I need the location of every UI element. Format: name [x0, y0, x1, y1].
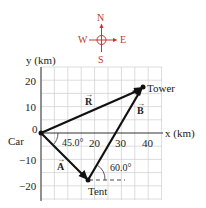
y-tick: 20 — [25, 76, 36, 87]
vector-arrow-a: → — [57, 156, 65, 164]
compass-south: S — [98, 55, 104, 65]
angle-b-label: 60.0° — [110, 163, 132, 173]
x-tick: 30 — [115, 138, 126, 149]
tower-label: Tower — [147, 83, 175, 94]
compass-east: E — [120, 35, 126, 45]
car-label: Car — [8, 136, 24, 147]
y-tick: −10 — [19, 155, 36, 166]
compass-west: W — [78, 35, 87, 45]
y-tick: −20 — [19, 181, 36, 192]
vector-arrow-b: → — [137, 100, 145, 108]
y-tick: 10 — [25, 102, 36, 113]
tower-point — [141, 85, 146, 90]
angle-a-label: 45.0° — [62, 138, 84, 148]
y-tick: 0 — [32, 124, 38, 135]
tent-label: Tent — [88, 186, 107, 197]
x-axis-label: x (km) — [165, 128, 195, 139]
compass-icon — [89, 27, 114, 52]
x-tick: 40 — [142, 138, 153, 149]
compass-north: N — [97, 13, 104, 23]
angle-arc-a — [53, 133, 58, 145]
vector-arrow-r: → — [85, 91, 93, 99]
y-axis-label: y (km) — [26, 55, 56, 66]
x-tick: 20 — [89, 138, 100, 149]
car-point — [39, 131, 44, 136]
